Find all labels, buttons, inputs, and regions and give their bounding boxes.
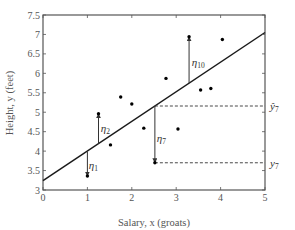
data-point (199, 88, 202, 91)
x-tick-label: 1 (85, 192, 90, 203)
x-tick-label: 0 (41, 192, 46, 203)
scatter-regression-chart: ŷ7y7η1η2η7η10 012345 33.544.555.566.577.… (0, 0, 295, 230)
y-tick-label: 4.5 (28, 126, 41, 137)
y-tick-label: 7 (35, 29, 40, 40)
residual-label: η1 (89, 159, 98, 173)
x-tick-label: 3 (174, 192, 179, 203)
y-tick-label: 3 (35, 185, 40, 196)
data-point (187, 35, 190, 38)
x-axis-label: Salary, x (groats) (118, 217, 190, 229)
data-point (221, 38, 224, 41)
y-tick-label: 5 (35, 107, 40, 118)
y-axis-label: Height, y (feet) (4, 70, 16, 135)
y-tick-label: 6 (35, 68, 40, 79)
data-point (164, 77, 167, 80)
x-tick-label: 4 (218, 192, 223, 203)
y-tick-label: 3.5 (28, 165, 41, 176)
data-point (109, 143, 112, 146)
data-point (130, 102, 133, 105)
residual-label: η7 (157, 132, 166, 146)
y-tick-label: 7.5 (28, 10, 41, 21)
reference-label: y7 (269, 157, 279, 171)
data-point (209, 87, 212, 90)
x-tick-label: 2 (129, 192, 134, 203)
residual-label: η10 (192, 56, 205, 70)
data-point (142, 126, 145, 129)
plot-area: ŷ7y7η1η2η7η10 (43, 15, 279, 190)
x-axis-ticks: 012345 (41, 15, 268, 203)
reference-label: ŷ7 (269, 100, 279, 114)
y-tick-label: 4 (35, 146, 40, 157)
data-point (153, 161, 156, 164)
y-tick-label: 6.5 (28, 48, 41, 59)
data-point (176, 127, 179, 130)
x-tick-label: 5 (263, 192, 268, 203)
data-point (97, 112, 100, 115)
y-tick-label: 5.5 (28, 87, 41, 98)
data-point (86, 174, 89, 177)
regression-line (43, 33, 265, 181)
data-point (119, 95, 122, 98)
residual-label: η2 (101, 122, 110, 136)
